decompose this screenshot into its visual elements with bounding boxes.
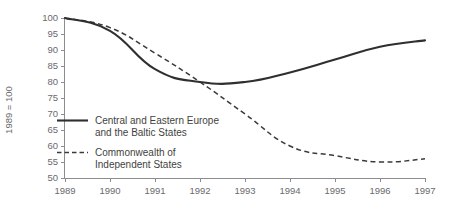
x-tick-label: 1993 <box>234 185 255 196</box>
y-tick-label: 75 <box>47 92 58 103</box>
y-tick-label: 70 <box>47 108 58 119</box>
y-tick-label: 80 <box>47 76 58 87</box>
y-axis: 50556065707580859095100 1989 = 100 <box>3 12 65 183</box>
y-tick-label: 90 <box>47 44 58 55</box>
legend-label-series-0-line1: Central and Eastern Europe <box>95 115 219 126</box>
y-tick-label: 50 <box>47 172 58 183</box>
legend-label-series-1-line1: Commonwealth of <box>95 147 176 158</box>
y-tick-label: 85 <box>47 60 58 71</box>
y-tick-label: 65 <box>47 124 58 135</box>
x-tick-label: 1992 <box>189 185 210 196</box>
y-tick-label: 55 <box>47 156 58 167</box>
series-line-central-and-eastern-europe <box>65 18 425 84</box>
x-tick-label: 1991 <box>144 185 165 196</box>
x-tick-label: 1994 <box>279 185 300 196</box>
x-tick-label: 1995 <box>324 185 345 196</box>
series-group <box>65 18 425 162</box>
legend: Central and Eastern Europe and the Balti… <box>57 115 219 170</box>
x-axis: 198919901991199219931994199519961997 <box>54 178 435 196</box>
legend-label-series-0-line2: and the Baltic States <box>95 127 187 138</box>
chart-container: 50556065707580859095100 1989 = 100 19891… <box>0 0 457 211</box>
x-tick-label: 1996 <box>369 185 390 196</box>
y-axis-title: 1989 = 100 <box>3 86 14 134</box>
legend-label-series-1-line2: Independent States <box>95 159 182 170</box>
x-tick-group: 198919901991199219931994199519961997 <box>54 178 435 196</box>
x-tick-label: 1997 <box>414 185 435 196</box>
y-tick-label: 60 <box>47 140 58 151</box>
line-chart: 50556065707580859095100 1989 = 100 19891… <box>0 0 457 211</box>
y-tick-group: 50556065707580859095100 <box>42 12 65 183</box>
x-tick-label: 1989 <box>54 185 75 196</box>
x-tick-label: 1990 <box>99 185 120 196</box>
series-line-commonwealth-of-independent-states <box>65 18 425 162</box>
y-tick-label: 95 <box>47 28 58 39</box>
y-tick-label: 100 <box>42 12 58 23</box>
